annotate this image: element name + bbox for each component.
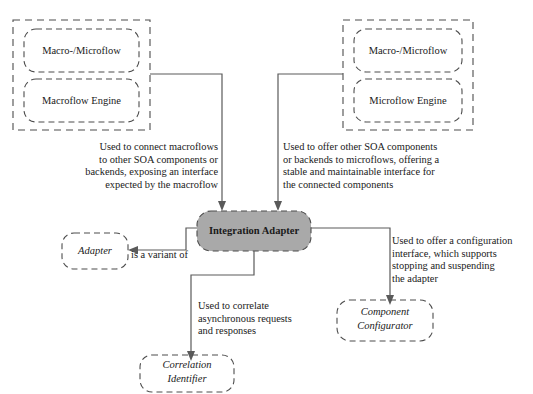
node-right-macroflow-label: Macro-/Microflow (369, 45, 448, 56)
node-left-macroflow-engine-label: Macroflow Engine (42, 95, 121, 106)
node-component-configurator-label-line1: Component (361, 306, 410, 317)
node-adapter-label: Adapter (77, 245, 113, 256)
diagram-canvas: Macro-/Microflow Macroflow Engine Macro-… (0, 0, 533, 394)
group-box-left (13, 20, 150, 130)
edge-adapter-to-configurator (311, 228, 390, 297)
group-box-right (343, 20, 473, 130)
annotation-left-edge: Used to connect macroflows to other SOA … (18, 141, 218, 191)
node-integration-adapter-label: Integration Adapter (209, 225, 299, 236)
node-left-macroflow-label: Macro-/Microflow (42, 45, 121, 56)
arrowhead-left-group-to-adapter (218, 201, 226, 211)
arrowhead-right-group-to-adapter (274, 201, 282, 211)
annotation-right-edge: Used to offer other SOA components or ba… (283, 141, 498, 191)
node-correlation-identifier-label-line1: Correlation (162, 359, 211, 370)
annotation-correlation-edge: Used to correlate asynchronous requests … (198, 300, 313, 338)
node-right-microflow-engine-label: Microflow Engine (369, 95, 447, 106)
annotation-configurator-edge: Used to offer a configuration interface,… (392, 235, 527, 285)
edge-adapter-variant (136, 228, 197, 250)
annotation-variant-label: is a variant of (131, 249, 211, 262)
node-correlation-identifier-label-line2: Identifier (166, 373, 207, 384)
node-component-configurator-label-line2: Configurator (357, 320, 413, 331)
